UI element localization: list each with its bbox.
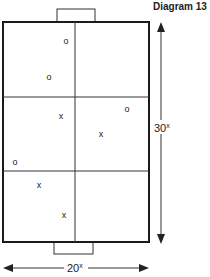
arrow-down-icon [157, 234, 165, 244]
pitch-diagram: ooxoxoxx 30x20x [0, 0, 210, 277]
arrow-left-icon [3, 264, 13, 272]
arrow-up-icon [157, 22, 165, 32]
player-o-marker: o [46, 72, 51, 82]
player-x-marker: x [37, 180, 42, 190]
player-o-marker: o [124, 104, 129, 114]
player-o-marker: o [63, 36, 68, 46]
bottom-goal [54, 242, 93, 254]
player-o-marker: o [12, 157, 17, 167]
player-x-marker: x [99, 129, 104, 139]
arrow-right-icon [139, 264, 149, 272]
field-boundary [3, 22, 149, 242]
player-x-marker: x [59, 111, 64, 121]
top-goal [57, 9, 95, 22]
player-x-marker: x [62, 210, 67, 220]
